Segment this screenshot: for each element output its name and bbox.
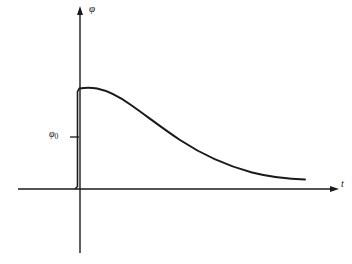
y-axis-label: φ bbox=[89, 3, 95, 14]
x-axis-group bbox=[18, 186, 339, 192]
y-axis-arrowhead bbox=[77, 6, 83, 15]
phi-zero-subscript: 0 bbox=[55, 132, 59, 141]
decay-curve bbox=[80, 88, 306, 180]
phi-zero-label: φ0 bbox=[49, 129, 58, 141]
jump-segment bbox=[76, 89, 80, 189]
figure-canvas: φ t φ0 bbox=[0, 0, 352, 264]
x-axis-label: t bbox=[341, 179, 344, 189]
x-axis-arrowhead bbox=[330, 186, 339, 192]
